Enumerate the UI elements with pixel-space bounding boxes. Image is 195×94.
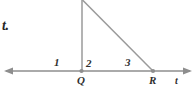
axis-label-t: t xyxy=(175,76,178,86)
arrow-right-icon xyxy=(183,67,192,74)
angle-label-1: 1 xyxy=(54,57,60,68)
hypotenuse-segment-to-r xyxy=(83,0,154,71)
geometry-figure: 1 2 3 Q R t t. xyxy=(0,0,195,94)
angle-label-3: 3 xyxy=(125,57,131,68)
point-label-q: Q xyxy=(77,75,85,86)
corner-text-fragment: t. xyxy=(2,19,9,33)
point-label-r: R xyxy=(149,75,156,86)
geometry-canvas xyxy=(0,0,195,94)
vertex-dot-q xyxy=(79,69,83,73)
vertex-dot-r xyxy=(151,69,155,73)
arrow-left-icon xyxy=(4,67,13,74)
angle-label-2: 2 xyxy=(86,58,92,69)
